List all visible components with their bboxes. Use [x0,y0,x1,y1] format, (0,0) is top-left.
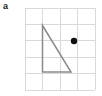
shapes-layer [43,26,72,73]
points-layer [71,38,77,44]
grid-lines [25,8,95,90]
figure-panel: a [0,0,102,96]
right-triangle [43,26,72,73]
geometry-canvas [0,0,102,96]
marked-point [71,38,77,44]
